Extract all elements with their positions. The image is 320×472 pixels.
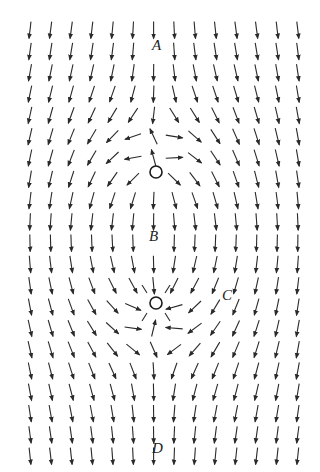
field-arrow (49, 192, 52, 209)
field-arrow (125, 134, 141, 140)
field-arrow (29, 448, 31, 465)
field-arrow (107, 130, 119, 142)
field-arrow (107, 343, 117, 356)
field-arrow (30, 213, 31, 230)
field-arrow (133, 22, 134, 39)
field-arrow (128, 108, 137, 122)
field-arrow (275, 107, 279, 124)
field-arrow (129, 278, 137, 293)
field-arrow (90, 384, 94, 400)
field-arrow (90, 405, 93, 422)
field-arrow (28, 107, 32, 124)
field-arrow (195, 235, 196, 252)
point-label-a: A (152, 38, 161, 53)
field-arrow (70, 43, 73, 60)
field-arrow (194, 213, 196, 230)
point-label-c: C (222, 288, 232, 303)
field-arrow (68, 342, 74, 358)
field-arrow (29, 43, 31, 60)
field-arrow (91, 448, 93, 465)
field-arrow (276, 192, 278, 209)
field-arrow (214, 43, 217, 60)
field-arrow (255, 405, 258, 422)
field-arrow (254, 150, 259, 166)
field-arrow (189, 343, 200, 356)
field-arrow (275, 363, 279, 380)
field-arrow (106, 323, 119, 334)
field-arrow (132, 43, 133, 60)
field-arrow (29, 22, 31, 39)
field-arrow (88, 129, 97, 144)
field-arrow (297, 277, 299, 294)
field-arrow (70, 256, 73, 273)
field-arrow (49, 86, 53, 103)
field-arrow (297, 213, 298, 230)
field-arrow (190, 172, 200, 186)
field-arrow (174, 213, 175, 230)
field-arrow (89, 363, 95, 379)
field-arrow (48, 128, 53, 144)
field-arrow (87, 321, 96, 335)
field-arrow (215, 22, 217, 39)
field-arrow (50, 22, 52, 39)
field-arrow (91, 43, 94, 60)
field-arrow (109, 363, 116, 378)
field-arrow (69, 192, 73, 209)
sink-tick (165, 313, 170, 321)
field-arrow (28, 384, 31, 401)
field-arrow (233, 107, 239, 123)
field-arrow (194, 22, 195, 39)
field-arrow (211, 129, 220, 143)
field-arrow (126, 344, 139, 355)
field-arrow (50, 448, 52, 465)
field-arrow (276, 86, 279, 103)
field-arrow (88, 108, 95, 123)
field-arrow (174, 43, 175, 60)
field-arrow (48, 150, 53, 166)
field-arrow (276, 448, 278, 465)
field-arrow (296, 341, 299, 358)
field-arrow (153, 192, 154, 209)
field-arrow (167, 344, 181, 354)
field-arrow (69, 277, 73, 293)
field-arrow (50, 256, 52, 273)
field-arrow (194, 426, 196, 443)
field-arrow (68, 129, 74, 145)
field-arrow (214, 405, 217, 422)
field-arrow (297, 64, 300, 81)
sink-tick (142, 285, 147, 293)
field-arrow (254, 107, 259, 123)
field-arrow (48, 107, 53, 123)
field-arrow (193, 384, 197, 400)
field-arrow (132, 405, 134, 422)
field-arrow (108, 172, 118, 186)
field-arrow (214, 64, 218, 81)
field-arrow (275, 150, 279, 167)
field-arrow (256, 213, 257, 230)
field-arrow (48, 341, 53, 357)
field-arrow (276, 426, 278, 443)
field-arrow (174, 426, 175, 443)
field-arrow (28, 86, 31, 103)
field-arrow (49, 405, 52, 422)
field-arrow (233, 299, 239, 315)
field-arrow (50, 213, 51, 230)
field-arrow (254, 128, 259, 144)
field-arrow (211, 321, 221, 335)
field-arrow (111, 213, 113, 230)
field-arrow (173, 384, 176, 401)
field-arrow (152, 320, 156, 337)
field-arrow (111, 64, 114, 81)
field-arrow (111, 43, 113, 60)
field-arrow (211, 151, 220, 165)
field-arrow (276, 299, 279, 316)
field-arrow (235, 43, 238, 60)
field-arrow (132, 384, 135, 401)
field-arrow (111, 405, 114, 422)
field-arrow (214, 426, 216, 443)
field-arrow (256, 448, 258, 465)
field-arrow (234, 192, 238, 209)
field-arrow (193, 256, 197, 273)
field-arrow (254, 341, 259, 357)
field-arrow (276, 64, 279, 81)
